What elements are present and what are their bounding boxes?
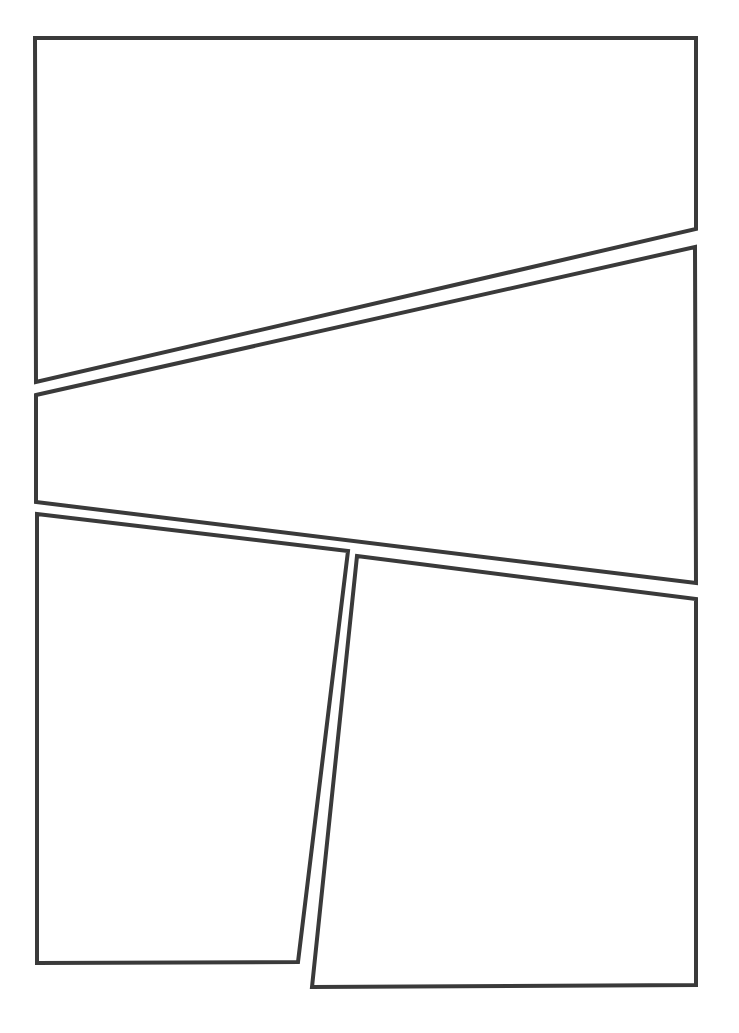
panel-4[interactable] <box>312 556 696 987</box>
comic-page <box>0 0 739 1033</box>
panel-3[interactable] <box>37 514 348 963</box>
panel-layout <box>0 0 739 1033</box>
